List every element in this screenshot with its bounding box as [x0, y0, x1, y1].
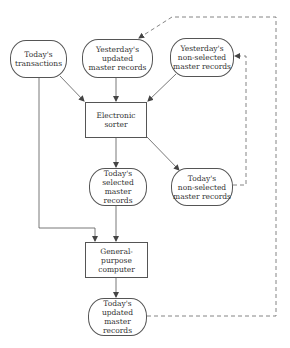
- edge-sorter-to-today-nonselected: [147, 137, 179, 170]
- node-electronic-sorter: Electronic sorter: [85, 102, 147, 138]
- node-yesterdays-nonselected-master-records: Yesterday's non-selected master records: [170, 38, 234, 77]
- node-todays-nonselected-master-records: Today's non-selected master records: [171, 168, 233, 206]
- node-todays-updated-master-records: Today's updated master records: [88, 298, 147, 336]
- node-label: Today's transactions: [15, 50, 62, 68]
- edge-today-nonselected-to-yesterday-nonselected: [233, 56, 246, 185]
- node-label: Today's selected master records: [102, 169, 134, 205]
- node-label: Today's updated master records: [102, 299, 133, 335]
- node-todays-selected-master-records: Today's selected master records: [89, 168, 147, 206]
- node-label: Yesterday's non-selected master records: [173, 44, 231, 71]
- node-yesterdays-updated-master-records: Yesterday's updated master records: [82, 39, 153, 78]
- edge-transactions-to-sorter: [60, 76, 84, 101]
- node-todays-transactions: Today's transactions: [10, 40, 67, 78]
- node-label: General-purpose computer: [86, 247, 147, 274]
- node-label: Yesterday's updated master records: [89, 45, 147, 72]
- node-label: Today's non-selected master records: [173, 174, 231, 201]
- edge-yesterday-nonselected-to-sorter: [148, 74, 176, 101]
- node-general-purpose-computer: General-purpose computer: [85, 242, 148, 278]
- node-label: Electronic sorter: [96, 111, 135, 129]
